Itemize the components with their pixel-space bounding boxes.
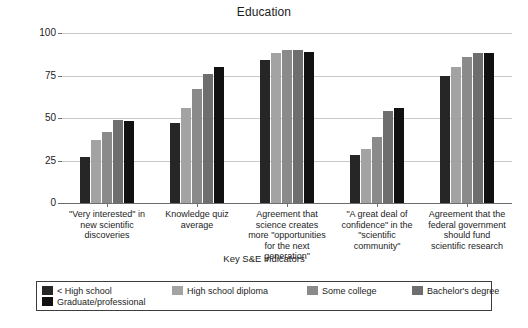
legend-swatch-icon	[307, 286, 318, 295]
figure-caption	[4, 318, 524, 328]
bar	[394, 108, 404, 203]
x-tick-label-line: community"	[332, 241, 422, 252]
bar	[304, 52, 314, 203]
x-tick-label: "A great deal ofconfidence" in the"scien…	[332, 209, 422, 251]
bar	[80, 157, 90, 203]
bar	[113, 120, 123, 203]
x-tick-label-line: "A great deal of	[332, 209, 422, 220]
figure-container: Education 0255075100 Percent "Very inter…	[0, 0, 528, 328]
x-tick-label-line: Agreement that	[242, 209, 332, 220]
bar-group	[152, 33, 242, 203]
bar-group-bars	[332, 33, 422, 203]
x-tick-mark	[107, 203, 108, 207]
y-tick-label: 0	[16, 198, 56, 208]
bar	[181, 108, 191, 203]
chart-title: Education	[0, 5, 528, 19]
bar-group-bars	[422, 33, 512, 203]
y-tick-label: 75	[16, 71, 56, 81]
legend-swatch-icon	[172, 286, 183, 295]
x-axis-title: Key S&E indicators	[0, 253, 528, 264]
bar	[271, 53, 281, 203]
legend-item[interactable]: Bachelor's degree	[412, 285, 499, 296]
x-tick-mark	[467, 203, 468, 207]
legend-item[interactable]: Graduate/professional	[42, 296, 146, 307]
bar	[170, 123, 180, 203]
bar	[124, 121, 134, 203]
bar	[473, 53, 483, 203]
bar-group-bars	[62, 33, 152, 203]
x-tick-label-line: more "opportunities	[242, 230, 332, 241]
bar-group	[332, 33, 422, 203]
legend-label: High school diploma	[187, 286, 268, 296]
x-tick-mark	[197, 203, 198, 207]
x-tick-label-line: should fund	[422, 230, 512, 241]
bar	[91, 140, 101, 203]
legend-label: < High school	[57, 286, 112, 296]
y-tick-mark	[58, 76, 62, 77]
bar	[451, 67, 461, 203]
x-tick-label-line: confidence" in the	[332, 220, 422, 231]
bar	[282, 50, 292, 203]
legend-label: Graduate/professional	[57, 297, 146, 307]
x-tick-label-line: federal government	[422, 220, 512, 231]
y-tick-mark	[58, 161, 62, 162]
x-tick-label-line: average	[152, 220, 242, 231]
x-tick-label: Agreement that thefederal governmentshou…	[422, 209, 512, 251]
x-tick-mark	[377, 203, 378, 207]
y-tick-mark	[58, 33, 62, 34]
x-tick-label-line: discoveries	[62, 230, 152, 241]
y-tick-label: 50	[16, 113, 56, 123]
legend-row: < High schoolHigh school diplomaSome col…	[42, 285, 487, 296]
legend-row: Graduate/professional	[42, 296, 487, 307]
legend-swatch-icon	[42, 297, 53, 306]
bar	[462, 57, 472, 203]
x-tick-label-line: Agreement that the	[422, 209, 512, 220]
bar-group-bars	[242, 33, 332, 203]
legend-label: Some college	[322, 286, 377, 296]
bar-group	[242, 33, 332, 203]
plot-area	[62, 33, 512, 203]
bar	[372, 137, 382, 203]
bar	[102, 132, 112, 203]
bar-group-bars	[152, 33, 242, 203]
bar-group	[422, 33, 512, 203]
bar	[383, 111, 393, 203]
y-tick-label: 100	[16, 28, 56, 38]
x-tick-label-line: science creates	[242, 220, 332, 231]
x-tick-label-line: "Very interested" in	[62, 209, 152, 220]
y-tick-label: 25	[16, 156, 56, 166]
y-tick-mark	[58, 118, 62, 119]
x-tick-label-line: scientific research	[422, 241, 512, 252]
legend-item[interactable]: Some college	[307, 285, 377, 296]
bar	[440, 76, 450, 204]
bar	[361, 149, 371, 203]
bar-group	[62, 33, 152, 203]
bar	[484, 53, 494, 203]
bar	[260, 60, 270, 203]
legend-swatch-icon	[42, 286, 53, 295]
x-tick-label-line: for the next	[242, 241, 332, 252]
x-tick-mark	[287, 203, 288, 207]
bar	[293, 50, 303, 203]
y-tick-mark	[58, 203, 62, 204]
x-tick-label: Knowledge quizaverage	[152, 209, 242, 230]
x-tick-label: "Very interested" innew scientificdiscov…	[62, 209, 152, 241]
x-tick-label-line: "scientific	[332, 230, 422, 241]
bar	[203, 74, 213, 203]
legend-label: Bachelor's degree	[427, 286, 499, 296]
x-tick-label-line: Knowledge quiz	[152, 209, 242, 220]
x-tick-label-line: new scientific	[62, 220, 152, 231]
bar	[214, 67, 224, 203]
bar	[192, 89, 202, 203]
legend-swatch-icon	[412, 286, 423, 295]
bar	[350, 155, 360, 203]
legend-item[interactable]: < High school	[42, 285, 112, 296]
legend-item[interactable]: High school diploma	[172, 285, 268, 296]
chart-legend: < High schoolHigh school diplomaSome col…	[36, 281, 492, 311]
